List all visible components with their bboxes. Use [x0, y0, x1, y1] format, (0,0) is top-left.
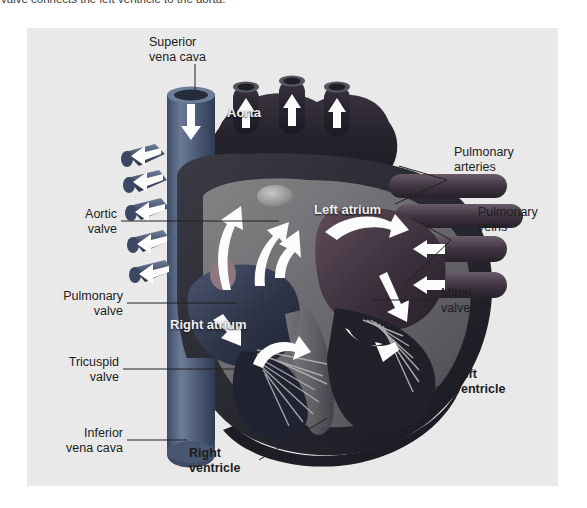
heart-diagram-figure: Superior vena cava Aorta Aortic valve Pu… [27, 28, 558, 486]
label-pulmonary-veins: Pulmonary veins [478, 205, 538, 234]
label-aortic-valve: Aortic valve [27, 207, 117, 236]
label-left-ventricle: Left ventricle [454, 367, 505, 396]
label-aorta: Aorta [227, 106, 261, 121]
label-right-atrium: Right atrium [170, 318, 247, 333]
label-tricuspid-valve: Tricuspid valve [27, 355, 119, 384]
label-pulmonary-valve: Pulmonary valve [27, 289, 123, 318]
label-right-ventricle: Right ventricle [189, 446, 240, 475]
label-mitral-valve: Mitral valve [441, 286, 472, 315]
aortic-valve-leaflet [257, 185, 293, 207]
heart-illustration [27, 28, 558, 486]
label-inferior-vena-cava: Inferior vena cava [27, 426, 123, 455]
caption-strip: valve connects the left ventricle to the… [0, 0, 587, 7]
caption-text: valve connects the left ventricle to the… [0, 0, 587, 7]
label-pulmonary-arteries: Pulmonary arteries [454, 145, 514, 174]
label-superior-vena-cava: Superior vena cava [149, 35, 206, 64]
label-left-atrium: Left atrium [314, 203, 381, 218]
